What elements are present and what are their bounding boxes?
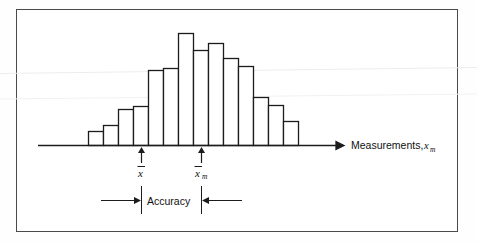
- true-value-label: x: [137, 167, 143, 179]
- x-axis-arrowhead: [336, 142, 344, 150]
- mean-value-label: x: [194, 167, 200, 179]
- accuracy-left-arrowhead: [134, 197, 141, 204]
- histogram-bar: [164, 69, 179, 146]
- mean-value-marker-group: x m: [194, 147, 208, 181]
- histogram-plot: Measurements, x m x x m Accuracy: [0, 0, 477, 244]
- histogram-bar: [134, 107, 149, 146]
- x-axis-title-text: Measurements,: [351, 139, 423, 151]
- histogram-bar: [119, 110, 134, 146]
- histogram-bar: [224, 59, 239, 146]
- true-value-marker-group: x: [137, 147, 145, 179]
- histogram-bars: [89, 34, 299, 146]
- x-axis-title-group: Measurements, x m: [351, 139, 436, 154]
- histogram-bar: [104, 126, 119, 146]
- histogram-bar: [209, 44, 224, 146]
- histogram-bar: [179, 34, 194, 146]
- x-axis-title-variable: x: [423, 140, 429, 151]
- mean-value-label-subscript: m: [202, 172, 208, 181]
- x-axis-title-subscript: m: [430, 145, 436, 154]
- true-value-marker-arrowhead: [138, 147, 145, 153]
- histogram-bar: [149, 71, 164, 146]
- histogram-bar: [89, 132, 104, 146]
- figure-root: Measurements, x m x x m Accuracy: [0, 0, 477, 244]
- histogram-bar: [194, 51, 209, 146]
- histogram-bar: [239, 67, 254, 146]
- histogram-bar: [254, 98, 269, 146]
- accuracy-dimension-group: Accuracy: [101, 186, 242, 214]
- accuracy-right-arrowhead: [202, 197, 209, 204]
- mean-value-marker-arrowhead: [198, 147, 205, 153]
- histogram-bar: [284, 122, 299, 146]
- histogram-bar: [269, 106, 284, 146]
- accuracy-label: Accuracy: [147, 195, 191, 207]
